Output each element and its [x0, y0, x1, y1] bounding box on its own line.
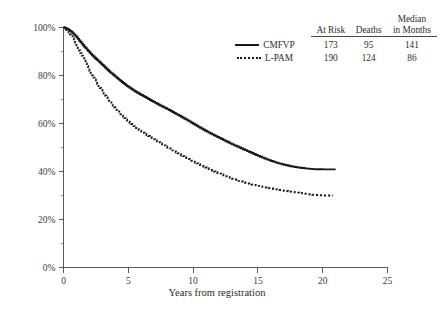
legend-header-at-risk: At Risk: [311, 25, 351, 37]
legend-row-lpam: L-PAM 190 124 86: [219, 50, 437, 63]
survival-chart-figure: 0%20%40%60%80%100% 0510152025 Years from…: [0, 0, 445, 311]
x-axis-title: Years from registration: [169, 287, 267, 298]
legend-header-spacer-deaths: [351, 14, 387, 25]
legend-table-container: Median At Risk Deaths in Months CMFVP 17…: [219, 14, 437, 64]
y-tick-label: 100%: [33, 23, 55, 33]
legend-series-label-cmfvp: CMFVP: [263, 40, 295, 50]
legend-series-cmfvp: CMFVP: [219, 37, 311, 50]
legend-header-median-line1: Median: [387, 14, 437, 25]
x-axis-ticks: [64, 268, 388, 273]
y-tick-label: 40%: [38, 167, 56, 177]
legend-header-blank-1: [219, 14, 311, 25]
legend-line-sample-solid-icon: [235, 42, 259, 48]
legend-table: Median At Risk Deaths in Months CMFVP 17…: [219, 14, 437, 64]
legend-row-cmfvp: CMFVP 173 95 141: [219, 37, 437, 50]
legend-header-row-1: Median: [219, 14, 437, 25]
x-tick-label: 25: [383, 276, 393, 286]
legend-header-row-2: At Risk Deaths in Months: [219, 25, 437, 37]
x-tick-label: 15: [253, 276, 263, 286]
legend-median-lpam: 86: [387, 50, 437, 63]
y-tick-label: 80%: [38, 71, 56, 81]
legend-header-spacer-atrisk: [311, 14, 351, 25]
legend-at-risk-cmfvp: 173: [311, 37, 351, 50]
y-tick-label: 0%: [43, 263, 56, 273]
legend-median-cmfvp: 141: [387, 37, 437, 50]
x-tick-label: 5: [126, 276, 131, 286]
y-tick-label: 20%: [38, 215, 56, 225]
legend-header-median-line2: in Months: [387, 25, 437, 37]
x-tick-label: 0: [61, 276, 66, 286]
x-tick-label: 20: [318, 276, 328, 286]
y-axis-tick-labels: 0%20%40%60%80%100%: [33, 23, 55, 273]
legend-header-deaths: Deaths: [351, 25, 387, 37]
x-tick-label: 10: [188, 276, 198, 286]
legend-line-sample-dotted-icon: [237, 55, 261, 61]
legend-header-blank-2: [219, 25, 311, 37]
legend-series-label-lpam: L-PAM: [265, 53, 293, 63]
legend-deaths-cmfvp: 95: [351, 37, 387, 50]
legend-deaths-lpam: 124: [351, 50, 387, 63]
x-axis-tick-labels: 0510152025: [61, 276, 392, 286]
legend-series-lpam: L-PAM: [219, 50, 311, 63]
legend-at-risk-lpam: 190: [311, 50, 351, 63]
y-tick-label: 60%: [38, 119, 56, 129]
y-axis-ticks: [59, 28, 64, 268]
